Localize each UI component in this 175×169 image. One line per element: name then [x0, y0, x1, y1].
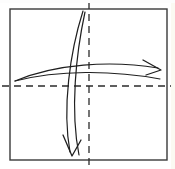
figure-container	[0, 0, 175, 169]
diagram-canvas	[0, 0, 175, 169]
top-edge-tint	[0, 0, 175, 3]
right-edge-tint	[171, 0, 175, 169]
